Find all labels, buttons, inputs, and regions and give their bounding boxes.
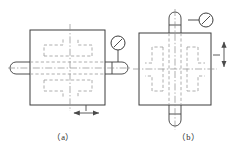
panel-a-block xyxy=(30,30,105,105)
panel-a-motion-arrow xyxy=(74,105,99,113)
engineering-drawing xyxy=(0,0,239,155)
panel-b-dial-indicator xyxy=(188,13,213,27)
panel-a xyxy=(8,24,130,113)
caption-panel-a: （a） xyxy=(52,130,74,142)
panel-b xyxy=(133,9,224,130)
panel-b-motion-arrow xyxy=(213,42,224,67)
panel-a-dial-indicator xyxy=(111,36,125,62)
caption-panel-b: （b） xyxy=(177,130,200,142)
figure-canvas: （a） （b） xyxy=(0,0,239,155)
